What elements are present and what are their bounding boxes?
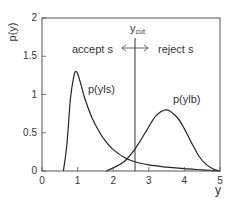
accept-s-label: accept s xyxy=(72,43,113,55)
y-axis-label: p(y) xyxy=(6,23,18,42)
curves xyxy=(63,71,220,171)
x-axis-label: y xyxy=(215,183,221,197)
x-tick-label: 4 xyxy=(182,175,188,186)
y-tick-label: 0 xyxy=(31,165,37,176)
y-tick-label: 1 xyxy=(31,89,37,100)
x-tick-label: 3 xyxy=(146,175,152,186)
signal-curve xyxy=(63,71,220,171)
y-tick-label: 1.5 xyxy=(23,50,37,61)
y-tick-label: 0.5 xyxy=(23,127,37,138)
background-curve xyxy=(106,110,220,171)
reject-s-label: reject s xyxy=(158,43,194,55)
x-tick-label: 0 xyxy=(39,175,45,186)
ycut-label: ycut xyxy=(130,22,145,35)
signal-curve-label: p(yls) xyxy=(88,83,115,95)
y-tick-label: 2 xyxy=(31,12,37,23)
x-tick-label: 2 xyxy=(110,175,116,186)
x-tick-label: 1 xyxy=(75,175,81,186)
chart: 01234500.511.52 p(y) y accept s reject s… xyxy=(0,0,234,205)
background-curve-label: p(ylb) xyxy=(173,93,201,105)
